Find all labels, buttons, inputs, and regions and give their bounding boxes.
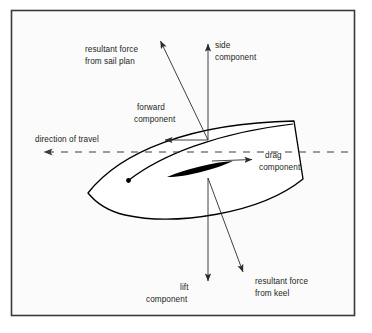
sailboat-force-diagram-canvas: resultant force from sail plan side comp… [0,0,372,333]
hull-marker-dot [126,178,131,183]
diagram-figure: resultant force from sail plan side comp… [0,0,372,333]
label-direction-of-travel: direction of travel [35,135,99,144]
